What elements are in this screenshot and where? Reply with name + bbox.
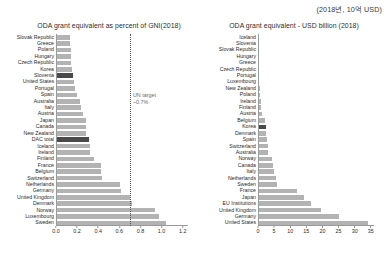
bar	[258, 125, 266, 130]
x-tick-label: 35	[368, 229, 374, 234]
bar	[258, 214, 339, 219]
x-tick-label: 0.0	[52, 229, 60, 234]
bar	[56, 150, 90, 155]
x-tick: 1.0	[158, 226, 166, 234]
bar	[56, 99, 80, 104]
y-axis-line-left	[56, 34, 57, 226]
plot-area-usd-billion: IcelandSloveniaSlovak RepublicHungaryGre…	[258, 34, 374, 241]
bar-category-label: United States	[23, 79, 54, 84]
bar-category-label: Austria	[38, 111, 54, 116]
bar-category-label: Czech Republic	[18, 60, 54, 65]
bar-category-label: DAC total	[32, 137, 54, 142]
bar-category-label: Italy	[246, 169, 256, 174]
bar	[56, 125, 86, 130]
bar-category-label: United Kingdom	[219, 208, 256, 213]
bar	[56, 105, 81, 110]
x-tick: 1.2	[179, 226, 187, 234]
chart-title-gni-percent: ODA grant equivalent as percent of GNI(2…	[0, 22, 196, 29]
bar	[56, 208, 155, 213]
x-tick: 0.4	[94, 226, 102, 234]
bar-category-label: Belgium	[35, 169, 54, 174]
x-tick: 0.8	[137, 226, 145, 234]
bar	[56, 137, 89, 142]
bar	[258, 150, 268, 155]
x-tick-label: 15	[303, 229, 309, 234]
chart-panel-usd-billion: ODA grant equivalent - USD billion (2018…	[196, 18, 386, 261]
bar-category-label: France	[240, 188, 256, 193]
chart-title-usd-billion: ODA grant equivalent - USD billion (2018…	[196, 22, 386, 29]
bar	[56, 86, 75, 91]
x-tick-label: 20	[319, 229, 325, 234]
bar	[258, 195, 304, 200]
bar-category-label: Spain	[41, 92, 54, 97]
bar-category-label: Norway	[238, 156, 256, 161]
chart-page: (2018년, 10억 USD) ODA grant equivalent as…	[0, 0, 386, 261]
x-tick-label: 1.2	[179, 229, 187, 234]
x-tick-label: 0	[257, 229, 260, 234]
bar	[56, 80, 74, 85]
bar-category-label: Austria	[240, 111, 256, 116]
bar	[56, 169, 101, 174]
bar	[56, 112, 83, 117]
x-tick: 0.6	[116, 226, 124, 234]
x-tick: 35	[368, 226, 374, 234]
bar	[56, 176, 102, 181]
bar	[258, 118, 265, 123]
bar	[56, 93, 77, 98]
bar-category-label: Korea	[242, 124, 256, 129]
x-tick-label: 1.0	[158, 229, 166, 234]
bar-category-label: Germany	[33, 188, 54, 193]
x-tick: 15	[303, 226, 309, 234]
bar-category-label: Poland	[38, 47, 54, 52]
x-tick: 10	[287, 226, 293, 234]
x-tick-label: 0.6	[116, 229, 124, 234]
bar	[56, 48, 71, 53]
x-tick: 0.2	[73, 226, 81, 234]
bar-category-label: Spain	[243, 137, 256, 142]
x-tick-label: 5	[273, 229, 276, 234]
un-target-annotation: UN target ~0.7%	[133, 92, 156, 106]
x-tick-label: 0.4	[94, 229, 102, 234]
un-target-value: ~0.7%	[133, 99, 156, 106]
x-tick: 20	[319, 226, 325, 234]
x-axis-ticks-left: 0.00.20.40.60.81.01.2	[56, 226, 188, 241]
x-tick: 30	[352, 226, 358, 234]
bar-category-label: Slovak Republic	[219, 47, 256, 52]
x-tick: 0	[257, 226, 260, 234]
bar	[56, 157, 94, 162]
bar	[56, 182, 120, 187]
x-tick-label: 25	[336, 229, 342, 234]
bar	[56, 61, 71, 66]
bar	[56, 35, 70, 40]
x-tick: 0.0	[52, 226, 60, 234]
bar	[258, 137, 267, 142]
bar	[56, 214, 159, 219]
bar	[258, 201, 311, 206]
x-axis-ticks-right: 05101520253035	[258, 226, 374, 241]
bar-category-label: United States	[225, 220, 256, 225]
bar-category-label: Switzerland	[27, 176, 54, 181]
x-tick: 5	[273, 226, 276, 234]
x-tick: 25	[336, 226, 342, 234]
plot-area-gni-percent: Slovak RepublicGreecePolandHungaryCzech …	[56, 34, 188, 241]
bar	[56, 163, 101, 168]
bar-category-label: Sweden	[35, 220, 54, 225]
bar-category-label: Switzerland	[229, 144, 256, 149]
x-tick-label: 0.8	[137, 229, 145, 234]
bar-category-label: Netherlands	[228, 176, 256, 181]
bar	[258, 208, 321, 213]
units-note: (2018년, 10억 USD)	[316, 4, 382, 14]
bar-category-label: Denmark	[33, 201, 54, 206]
bar	[258, 131, 266, 136]
bar	[56, 131, 86, 136]
x-tick-label: 10	[287, 229, 293, 234]
bar	[258, 163, 273, 168]
bar	[258, 157, 272, 162]
bar	[56, 195, 130, 200]
chart-panel-gni-percent: ODA grant equivalent as percent of GNI(2…	[0, 18, 196, 261]
bar	[56, 67, 72, 72]
bar-category-label: Norway	[36, 208, 54, 213]
bar-category-label: Finland	[37, 156, 54, 161]
bar	[258, 182, 277, 187]
bar	[56, 118, 86, 123]
